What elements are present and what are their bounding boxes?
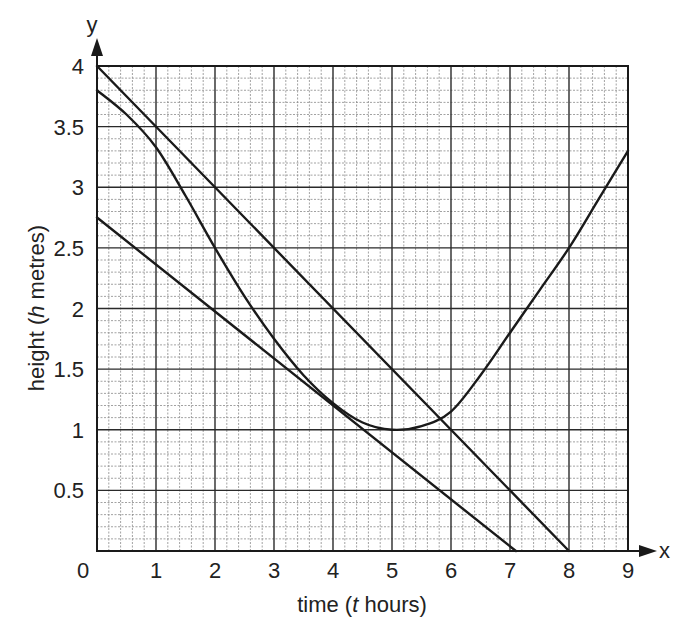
- x-tick-label: 5: [386, 558, 398, 583]
- y-axis-title: height (h metres): [24, 225, 49, 391]
- x-tick-label: 2: [209, 558, 221, 583]
- grid-major: [97, 66, 628, 551]
- x-tick-label: 8: [563, 558, 575, 583]
- x-tick-label: 6: [445, 558, 457, 583]
- x-tick-labels: 0123456789: [77, 558, 634, 583]
- x-tick-label: 9: [622, 558, 634, 583]
- chart: y x 0123456789 0.511.522.533.54 time (t …: [0, 0, 683, 634]
- y-tick-label: 3.5: [53, 115, 84, 140]
- series-curve: [97, 90, 628, 430]
- x-axis-letter: x: [659, 538, 670, 563]
- y-tick-label: 1.5: [53, 357, 84, 382]
- y-tick-label: 1: [72, 418, 84, 443]
- y-axis-letter: y: [87, 12, 98, 37]
- x-axis-title: time (t hours): [297, 592, 427, 617]
- y-tick-labels: 0.511.522.533.54: [53, 54, 84, 503]
- x-axis-arrow-icon: [639, 545, 657, 557]
- x-tick-label: 4: [327, 558, 339, 583]
- x-tick-label: 1: [150, 558, 162, 583]
- y-tick-label: 3: [72, 175, 84, 200]
- x-tick-label: 7: [504, 558, 516, 583]
- series-lower-straight-line: [97, 218, 516, 551]
- x-tick-label: 0: [77, 558, 89, 583]
- y-axis-arrow-icon: [91, 38, 103, 56]
- y-tick-label: 2.5: [53, 236, 84, 261]
- y-tick-label: 2: [72, 297, 84, 322]
- x-tick-label: 3: [268, 558, 280, 583]
- y-tick-label: 4: [72, 54, 84, 79]
- y-tick-label: 0.5: [53, 478, 84, 503]
